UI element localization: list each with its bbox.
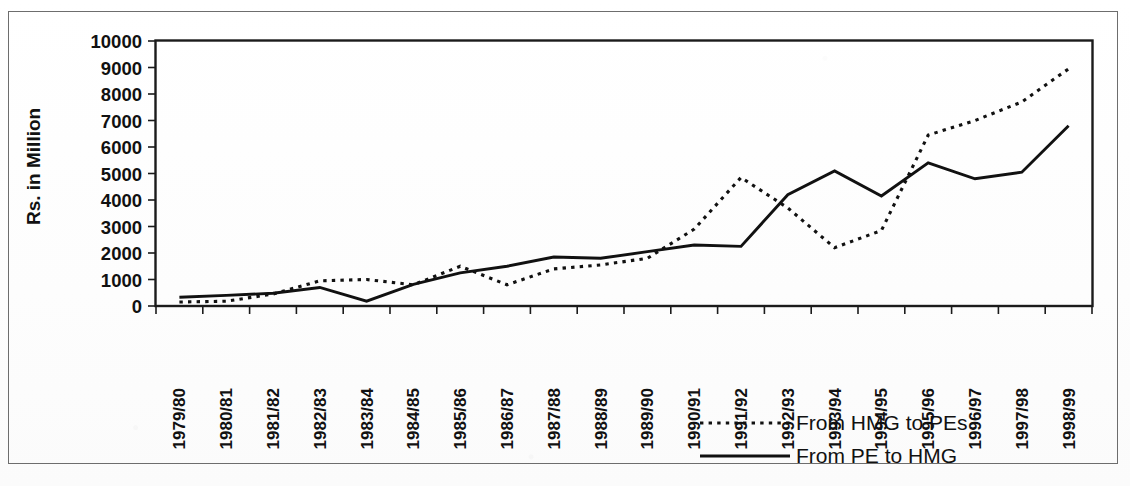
x-axis-tick-label: 1990/91 (685, 388, 704, 449)
x-axis-tick-label: 1985/86 (451, 388, 470, 449)
y-axis-tick-label: 1000 (101, 270, 142, 291)
x-axis-ticks (156, 306, 1092, 314)
series-line-from-hmg-to-pes (179, 69, 1068, 302)
x-axis-tick-label: 1980/81 (217, 388, 236, 449)
legend-label-from-pe-to-hmg: From PE to HMG (796, 444, 957, 467)
x-axis-tick-label: 1987/88 (545, 388, 564, 449)
y-axis-tick-label: 6000 (101, 137, 142, 158)
y-axis-title: Rs. in Million (23, 108, 44, 225)
y-axis-tick-label: 9000 (101, 58, 142, 79)
y-axis-tick-labels: 0100020003000400050006000700080009000100… (91, 31, 142, 317)
y-axis-tick-label: 10000 (91, 31, 142, 52)
series-line-from-pe-to-hmg (179, 126, 1068, 301)
chart-figure: 0100020003000400050006000700080009000100… (0, 0, 1130, 486)
y-axis-tick-label: 0 (132, 296, 142, 317)
x-axis-tick-label: 1982/83 (311, 388, 330, 449)
x-axis-tick-label: 1979/80 (170, 388, 189, 449)
y-axis-tick-label: 7000 (101, 111, 142, 132)
y-axis-tick-label: 3000 (101, 217, 142, 238)
y-axis-tick-label: 5000 (101, 164, 142, 185)
x-axis-tick-label: 1998/99 (1060, 388, 1079, 449)
y-axis-tick-label: 2000 (101, 243, 142, 264)
x-axis-tick-label: 1989/90 (638, 388, 657, 449)
x-axis-tick-label: 1996/97 (966, 388, 985, 449)
x-axis-tick-label: 1991/92 (732, 388, 751, 449)
line-chart-svg: 0100020003000400050006000700080009000100… (0, 0, 1130, 486)
y-axis-tick-label: 4000 (101, 190, 142, 211)
x-axis-tick-label: 1997/98 (1013, 388, 1032, 449)
x-axis-tick-label: 1984/85 (404, 388, 423, 449)
x-axis-tick-label: 1988/89 (592, 388, 611, 449)
plot-frame (156, 41, 1093, 307)
plot-border-rect (156, 41, 1093, 307)
x-axis-tick-label: 1983/84 (358, 387, 377, 449)
x-axis-tick-label: 1981/82 (264, 388, 283, 449)
x-axis-tick-label: 1986/87 (498, 388, 517, 449)
series-group (179, 69, 1068, 302)
x-axis-tick-label: 1992/93 (779, 388, 798, 449)
legend-label-from-hmg-to-pes: From HMG to PEs (796, 411, 968, 434)
chart-plot-container: 0100020003000400050006000700080009000100… (0, 0, 1130, 486)
y-axis-tick-label: 8000 (101, 84, 142, 105)
